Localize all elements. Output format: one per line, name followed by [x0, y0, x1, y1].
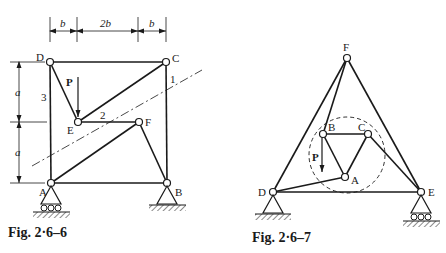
figure-caption-2-6-7: Fig. 2·6–7	[252, 230, 311, 245]
joint-b	[320, 131, 327, 138]
member-label-1: 1	[170, 73, 176, 85]
joint-a	[342, 174, 349, 181]
joint-e	[75, 119, 82, 126]
dim-a-upper: a	[15, 86, 21, 98]
roller-support-e	[403, 195, 440, 227]
load-label-p: P	[66, 76, 73, 88]
node-label-c: C	[358, 121, 365, 133]
node-label-f: F	[145, 116, 151, 128]
dim-b-right: b	[149, 17, 155, 29]
pin-support-d	[255, 195, 291, 220]
joint-c	[365, 131, 372, 138]
node-label-a: A	[351, 174, 359, 186]
figure-2-6-7: P F B C A D E Fig. 2·6–7	[252, 41, 440, 245]
node-label-b: B	[328, 121, 335, 133]
node-label-f: F	[343, 41, 349, 53]
node-label-e: E	[67, 124, 74, 136]
dim-b-left: b	[60, 17, 66, 29]
joint-c	[163, 59, 170, 66]
joint-f	[136, 119, 143, 126]
node-label-c: C	[172, 52, 179, 64]
diagram-canvas: b 2b b a a P 3	[0, 0, 446, 253]
load-label-p: P	[312, 151, 319, 163]
joints	[270, 55, 425, 196]
node-label-b: B	[175, 186, 182, 198]
joint-d	[47, 59, 54, 66]
node-label-d: D	[258, 186, 266, 198]
member-label-3: 3	[41, 91, 47, 103]
truss-members	[273, 58, 421, 192]
joint-f	[344, 55, 351, 62]
node-label-e: E	[428, 186, 435, 198]
dim-2b: 2b	[100, 17, 112, 29]
node-label-d: D	[36, 51, 44, 63]
left-dimension	[10, 62, 47, 183]
section-line	[32, 70, 202, 166]
member-label-2: 2	[100, 109, 106, 121]
dim-a-lower: a	[15, 146, 21, 158]
figure-caption-2-6-6: Fig. 2·6–6	[8, 225, 67, 240]
figure-2-6-6: b 2b b a a P 3	[8, 17, 202, 240]
